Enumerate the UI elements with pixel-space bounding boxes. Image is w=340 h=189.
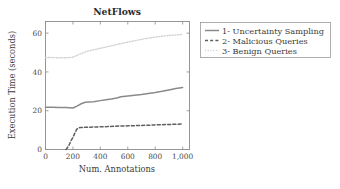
- legend-label-2: 2- Malicious Queries: [222, 36, 308, 46]
- x-tick-label: 800: [148, 152, 162, 161]
- x-tick-label: 400: [93, 152, 107, 161]
- y-tick-label: 60: [33, 29, 43, 38]
- y-tick-label: 20: [33, 106, 43, 115]
- y-axis-title: Execution Time (seconds): [7, 31, 17, 139]
- chart-title: NetFlows: [93, 6, 141, 17]
- y-tick-label: 0: [37, 145, 42, 154]
- legend-label-3: 3- Benign Queries: [222, 46, 297, 56]
- x-tick-label: 600: [121, 152, 135, 161]
- legend-label-1: 1- Uncertainty Sampling: [222, 26, 324, 36]
- x-tick-label: 1,000: [172, 152, 193, 161]
- x-tick-label: 200: [66, 152, 80, 161]
- chart-screenshot: NetFlows 02004006008001,000 0204060 Num.…: [0, 0, 340, 189]
- x-axis-title: Num. Annotations: [79, 164, 155, 174]
- y-tick-label: 40: [33, 68, 43, 77]
- netflows-line-chart: NetFlows 02004006008001,000 0204060 Num.…: [0, 0, 340, 189]
- x-tick-label: 0: [43, 152, 48, 161]
